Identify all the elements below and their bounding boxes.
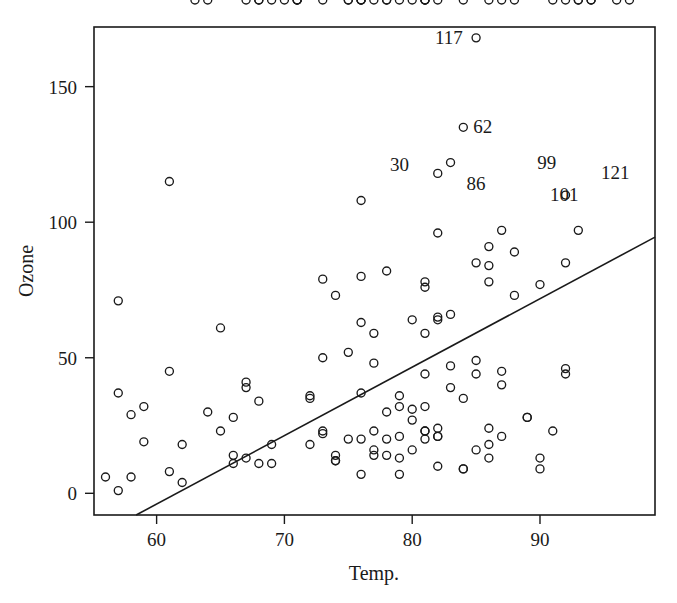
y-axis-ticks: 050100150 [49,77,95,505]
data-point [549,427,557,435]
outlier-label: 121 [601,162,630,183]
outlier-label: 30 [390,154,409,175]
data-point [383,267,391,275]
data-point [383,435,391,443]
data-point [370,0,378,4]
data-point [255,459,263,467]
data-point [344,435,352,443]
data-point [178,478,186,486]
data-point [357,272,365,280]
data-point [370,329,378,337]
data-point [498,226,506,234]
outlier-label: 99 [537,152,556,173]
data-point [472,356,480,364]
data-point [319,0,327,4]
plot-frame [94,27,655,515]
data-point [395,470,403,478]
data-point [485,441,493,449]
data-point [434,229,442,237]
data-point [165,468,173,476]
data-point [217,324,225,332]
outlier-label: 86 [467,173,486,194]
data-point [204,0,212,4]
data-point [268,0,276,4]
data-point [510,248,518,256]
data-point [434,424,442,432]
data-point [447,310,455,318]
data-point [459,394,467,402]
data-point [102,473,110,481]
data-point [242,0,250,4]
data-point-group [102,0,634,495]
data-point [562,365,570,373]
data-point [498,381,506,389]
data-point [319,354,327,362]
data-point [472,259,480,267]
data-point [421,370,429,378]
data-point [191,0,199,4]
data-point [395,432,403,440]
data-point [114,487,122,495]
data-point [613,0,621,4]
data-point [421,403,429,411]
x-tick-label: 90 [530,529,549,550]
figure-canvas: 60708090 050100150 11762991211013086 Tem… [0,0,677,603]
data-point [562,259,570,267]
data-point [357,197,365,205]
data-point [510,0,518,4]
data-point [204,408,212,416]
outlier-label: 101 [550,184,579,205]
data-point [395,392,403,400]
data-point [587,0,595,4]
scatter-plot: 60708090 050100150 11762991211013086 Tem… [0,0,677,603]
data-point [434,169,442,177]
data-point [370,427,378,435]
y-tick-label: 50 [58,348,77,369]
data-point [408,405,416,413]
y-tick-label: 0 [68,483,78,504]
data-point [536,454,544,462]
data-point [357,0,365,4]
data-point [574,226,582,234]
data-point [472,34,480,42]
data-point [536,281,544,289]
data-point [370,451,378,459]
data-point [574,0,582,4]
data-point [459,465,467,473]
data-point [421,435,429,443]
data-point [625,0,633,4]
data-point [498,0,506,4]
data-point [344,348,352,356]
data-point [421,283,429,291]
data-point [485,278,493,286]
data-point [408,0,416,4]
data-point [434,432,442,440]
data-point [472,370,480,378]
data-point [370,359,378,367]
data-point [344,0,352,4]
y-axis-title: Ozone [15,245,37,297]
data-point [332,457,340,465]
data-point [165,178,173,186]
outlier-label-group: 11762991211013086 [390,27,630,205]
data-point [280,0,288,4]
y-tick-label: 100 [49,212,78,233]
data-point [306,441,314,449]
data-point [127,411,135,419]
data-point [217,427,225,435]
data-point [114,297,122,305]
data-point [395,0,403,4]
data-point [421,0,429,4]
x-axis-title: Temp. [349,562,399,585]
x-tick-label: 60 [147,529,166,550]
data-point [127,473,135,481]
data-point [395,403,403,411]
data-point [485,454,493,462]
data-point [447,362,455,370]
data-point [395,454,403,462]
data-point [165,367,173,375]
data-point [408,416,416,424]
x-tick-label: 80 [403,529,422,550]
data-point [421,329,429,337]
data-point [255,397,263,405]
